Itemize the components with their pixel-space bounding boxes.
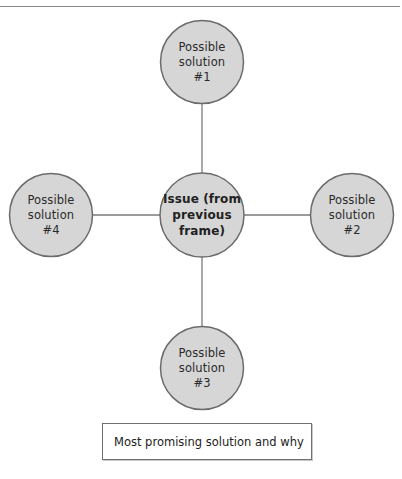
most-promising-solution-label: Most promising solution and why <box>114 435 304 449</box>
solution-4-node: Possible solution #4 <box>9 173 93 257</box>
solution-2-line-3: #2 <box>343 223 360 238</box>
solution-1-node: Possible solution #1 <box>160 20 244 104</box>
solution-2-line-2: solution <box>329 208 375 223</box>
solution-4-line-2: solution <box>28 208 74 223</box>
issue-line-1: Issue (from <box>163 191 241 207</box>
solution-2-node: Possible solution #2 <box>310 173 394 257</box>
solution-3-line-2: solution <box>179 361 225 376</box>
solution-1-line-1: Possible <box>178 40 225 55</box>
most-promising-solution-box: Most promising solution and why <box>102 423 312 460</box>
issue-line-2: previous <box>172 207 231 223</box>
issue-node: Issue (from previous frame) <box>160 173 244 257</box>
solution-1-line-2: solution <box>179 55 225 70</box>
solution-1-line-3: #1 <box>193 70 210 85</box>
solution-2-line-1: Possible <box>328 193 375 208</box>
solution-3-line-3: #3 <box>193 376 210 391</box>
solution-4-line-3: #4 <box>42 223 59 238</box>
solution-3-node: Possible solution #3 <box>160 326 244 410</box>
solution-3-line-1: Possible <box>178 346 225 361</box>
issue-line-3: frame) <box>179 223 225 239</box>
solution-4-line-1: Possible <box>27 193 74 208</box>
